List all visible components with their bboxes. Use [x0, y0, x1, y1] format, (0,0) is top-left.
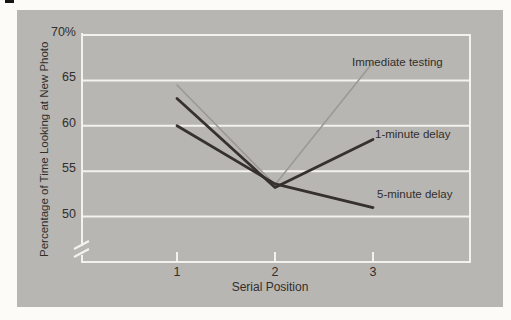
series-line-5-minute-delay — [177, 126, 373, 208]
chart-canvas — [0, 0, 511, 320]
